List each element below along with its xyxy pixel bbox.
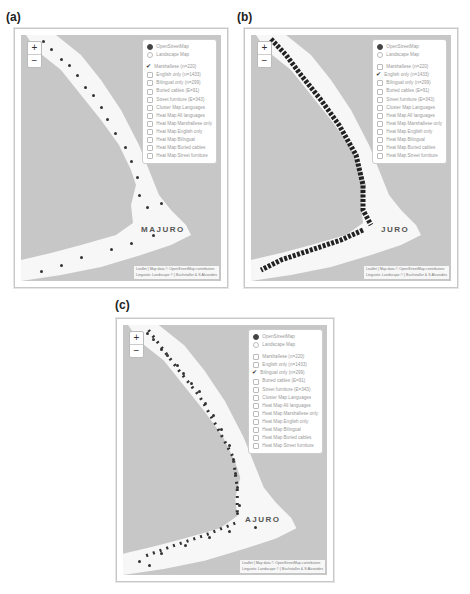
radio-icon[interactable] xyxy=(377,44,383,50)
checkbox-icon[interactable] xyxy=(147,113,153,119)
checkbox-icon[interactable] xyxy=(377,129,383,135)
overlay-item[interactable]: Cluster Map Languages xyxy=(147,104,212,112)
checkbox-icon[interactable] xyxy=(147,129,153,135)
checkbox-icon[interactable] xyxy=(147,89,153,95)
base-layer-landscape[interactable]: Landscape Map xyxy=(147,51,212,59)
overlay-item[interactable]: Marshallese (n=220) xyxy=(253,353,318,361)
checkbox-icon[interactable] xyxy=(253,427,259,433)
map-canvas[interactable]: + − MAJURO OpenStreetMap Landscape Map M… xyxy=(21,35,221,281)
base-layer-openstreetmap[interactable]: OpenStreetMap xyxy=(147,43,212,51)
base-layer-openstreetmap[interactable]: OpenStreetMap xyxy=(377,43,442,51)
checkbox-icon[interactable] xyxy=(377,80,383,86)
zoom-control: + − xyxy=(129,331,144,358)
overlay-item[interactable]: Heat Map English only xyxy=(147,128,212,136)
radio-icon[interactable] xyxy=(253,334,259,340)
map-canvas[interactable]: + − JURO OpenStreetMap Landscape Map Mar… xyxy=(251,35,451,281)
radio-icon[interactable] xyxy=(377,52,383,58)
place-label: JURO xyxy=(381,225,409,234)
overlay-item[interactable]: Heat Map Bilingual xyxy=(147,136,212,144)
zoom-out-button[interactable]: − xyxy=(130,344,143,357)
base-layer-openstreetmap[interactable]: OpenStreetMap xyxy=(253,333,318,341)
checkbox-icon[interactable] xyxy=(253,435,259,441)
layer-control: OpenStreetMap Landscape Map Marshallese … xyxy=(372,39,447,164)
radio-icon[interactable] xyxy=(147,52,153,58)
checkbox-icon[interactable] xyxy=(377,145,383,151)
overlay-item[interactable]: Cluster Map Languages xyxy=(377,104,442,112)
panel-label-c: (c) xyxy=(115,298,130,312)
zoom-in-button[interactable]: + xyxy=(258,42,271,54)
overlay-item[interactable]: Heat Map Bilingual xyxy=(253,426,318,434)
place-label: AJURO xyxy=(245,515,281,524)
checkbox-checked-icon[interactable] xyxy=(377,73,381,77)
overlay-item[interactable]: Heat Map Street furniture xyxy=(377,152,442,160)
overlay-item[interactable]: English only (n=1433) xyxy=(147,71,212,79)
checkbox-icon[interactable] xyxy=(377,89,383,95)
overlay-item[interactable]: Street furniture (E=343) xyxy=(253,386,318,394)
overlay-item[interactable]: Heat Map English only xyxy=(253,418,318,426)
overlay-item[interactable]: Marshallese (n=220) xyxy=(377,63,442,71)
overlay-item[interactable]: Buried cables (E=91) xyxy=(253,377,318,385)
overlay-item[interactable]: Heat Map Buried cables xyxy=(253,434,318,442)
base-layer-landscape[interactable]: Landscape Map xyxy=(253,341,318,349)
overlay-item[interactable]: Heat Map All languages xyxy=(377,112,442,120)
zoom-in-button[interactable]: + xyxy=(130,332,143,344)
checkbox-checked-icon[interactable] xyxy=(253,371,257,375)
checkbox-icon[interactable] xyxy=(377,113,383,119)
overlay-item[interactable]: Heat Map Marshallese only xyxy=(253,410,318,418)
overlay-item[interactable]: Street furniture (E=343) xyxy=(377,96,442,104)
radio-icon[interactable] xyxy=(147,44,153,50)
overlay-item[interactable]: Buried cables (E=91) xyxy=(377,87,442,95)
checkbox-icon[interactable] xyxy=(253,411,259,417)
panel-label-b: (b) xyxy=(237,10,252,24)
zoom-out-button[interactable]: − xyxy=(28,54,41,67)
overlay-item[interactable]: Heat Map Buried cables xyxy=(377,144,442,152)
checkbox-icon[interactable] xyxy=(253,379,259,385)
overlay-item[interactable]: Heat Map Street furniture xyxy=(147,152,212,160)
zoom-in-button[interactable]: + xyxy=(28,42,41,54)
zoom-control: + − xyxy=(257,41,272,68)
checkbox-icon[interactable] xyxy=(147,80,153,86)
checkbox-icon[interactable] xyxy=(253,387,259,393)
overlay-item[interactable]: English only (n=1433) xyxy=(377,71,442,79)
checkbox-icon[interactable] xyxy=(147,97,153,103)
checkbox-icon[interactable] xyxy=(377,105,383,111)
checkbox-icon[interactable] xyxy=(377,137,383,143)
overlay-item[interactable]: Marshallese (n=220) xyxy=(147,63,212,71)
checkbox-icon[interactable] xyxy=(147,153,153,159)
checkbox-icon[interactable] xyxy=(253,395,259,401)
overlay-item[interactable]: Heat Map Buried cables xyxy=(147,144,212,152)
checkbox-icon[interactable] xyxy=(147,137,153,143)
overlay-item[interactable]: Heat Map Bilingual xyxy=(377,136,442,144)
overlay-item[interactable]: Bilingual only (n=299) xyxy=(147,79,212,87)
checkbox-icon[interactable] xyxy=(253,419,259,425)
overlay-item[interactable]: Heat Map Marshallese only xyxy=(377,120,442,128)
overlay-item[interactable]: Street furniture (E=343) xyxy=(147,96,212,104)
overlay-item[interactable]: Heat Map Street furniture xyxy=(253,442,318,450)
overlay-item[interactable]: Cluster Map Languages xyxy=(253,394,318,402)
overlay-item[interactable]: Bilingual only (n=299) xyxy=(253,369,318,377)
overlay-item[interactable]: English only (n=1433) xyxy=(253,361,318,369)
checkbox-icon[interactable] xyxy=(377,64,383,70)
checkbox-icon[interactable] xyxy=(377,97,383,103)
overlay-item[interactable]: Heat Map All languages xyxy=(147,112,212,120)
overlay-item[interactable]: Heat Map All languages xyxy=(253,402,318,410)
overlay-item[interactable]: Buried cables (E=91) xyxy=(147,87,212,95)
zoom-out-button[interactable]: − xyxy=(258,54,271,67)
checkbox-icon[interactable] xyxy=(147,145,153,151)
checkbox-icon[interactable] xyxy=(253,354,259,360)
checkbox-icon[interactable] xyxy=(377,153,383,159)
overlay-item[interactable]: Heat Map English only xyxy=(377,128,442,136)
checkbox-icon[interactable] xyxy=(147,72,153,78)
checkbox-icon[interactable] xyxy=(147,121,153,127)
radio-icon[interactable] xyxy=(253,342,259,348)
overlay-item[interactable]: Heat Map Marshallese only xyxy=(147,120,212,128)
checkbox-icon[interactable] xyxy=(147,105,153,111)
checkbox-icon[interactable] xyxy=(253,362,259,368)
checkbox-icon[interactable] xyxy=(253,403,259,409)
checkbox-icon[interactable] xyxy=(377,121,383,127)
base-layer-landscape[interactable]: Landscape Map xyxy=(377,51,442,59)
checkbox-icon[interactable] xyxy=(253,443,259,449)
checkbox-checked-icon[interactable] xyxy=(147,65,151,69)
overlay-item[interactable]: Bilingual only (n=299) xyxy=(377,79,442,87)
map-canvas[interactable]: + − AJURO OpenStreetMap Landscape Map Ma… xyxy=(123,325,327,575)
